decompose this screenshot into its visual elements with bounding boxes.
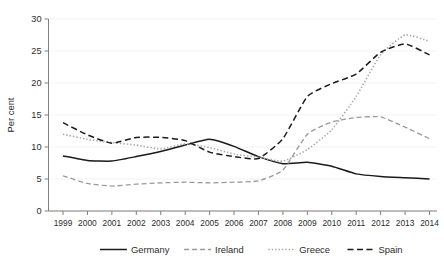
x-tick-label-2014: 2014 [420,218,439,228]
x-tick-label-2005: 2005 [200,218,219,228]
chart-legend: GermanyIrelandGreeceSpain [100,244,403,255]
data-series-group [63,35,430,186]
x-axis-ticks-group: 1999200020012002200320042005200620072008… [54,211,439,228]
y-tick-label-5: 5 [36,174,41,184]
gridlines-group [49,19,438,211]
legend-label-germany: Germany [131,244,170,255]
y-tick-label-25: 25 [31,46,41,56]
legend-label-ireland: Ireland [215,244,244,255]
x-tick-label-2008: 2008 [274,218,293,228]
x-tick-label-2002: 2002 [127,218,146,228]
x-tick-label-2001: 2001 [103,218,122,228]
legend-label-greece: Greece [299,244,330,255]
line-chart-svg: 051015202530 199920002001200220032004200… [0,0,444,270]
legend-label-spain: Spain [378,244,402,255]
y-tick-label-20: 20 [31,78,41,88]
x-tick-label-2013: 2013 [396,218,415,228]
y-tick-label-0: 0 [36,206,41,216]
x-tick-label-2006: 2006 [225,218,244,228]
series-line-germany [63,139,430,179]
x-tick-label-1999: 1999 [54,218,73,228]
y-tick-label-30: 30 [31,14,41,24]
y-axis-ticks-group: 051015202530 [31,14,48,216]
chart-figure: 051015202530 199920002001200220032004200… [0,0,444,270]
y-tick-label-10: 10 [31,142,41,152]
x-tick-label-2000: 2000 [78,218,97,228]
x-tick-label-2003: 2003 [151,218,170,228]
x-tick-label-2004: 2004 [176,218,195,228]
x-tick-label-2009: 2009 [298,218,317,228]
x-tick-label-2011: 2011 [347,218,365,228]
x-tick-label-2010: 2010 [322,218,341,228]
series-line-spain [63,44,430,159]
x-tick-label-2012: 2012 [371,218,390,228]
x-tick-label-2007: 2007 [249,218,268,228]
y-axis-title-group: Per cent [5,97,16,132]
y-tick-label-15: 15 [31,110,41,120]
y-axis-title: Per cent [5,97,16,132]
